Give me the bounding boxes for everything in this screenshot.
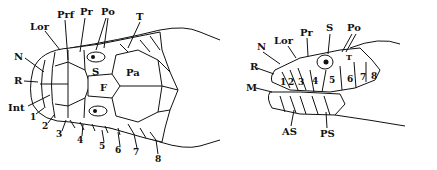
- snake-head-scale-diagram: Lor Prf Pr Po T N R Int S F Pa 1 2 3 4 5…: [0, 0, 437, 170]
- label-s: S: [92, 66, 99, 77]
- label-f: F: [100, 82, 107, 93]
- label-po: Po: [101, 6, 115, 17]
- label-pr-lateral: Pr: [300, 27, 314, 38]
- label-r: R: [14, 75, 23, 86]
- label-lat-2: 2: [288, 77, 294, 87]
- label-supralabial-1: 1: [30, 112, 36, 122]
- label-int: Int: [8, 102, 25, 113]
- label-lat-7: 7: [360, 72, 366, 82]
- label-lat-4: 4: [312, 76, 318, 86]
- diagram-canvas: Lor Prf Pr Po T N R Int S F Pa 1 2 3 4 5…: [0, 0, 437, 170]
- label-m-lateral: M: [246, 82, 257, 93]
- label-supralabial-3: 3: [56, 129, 62, 139]
- label-prf: Prf: [57, 9, 75, 20]
- label-po-lateral: Po: [347, 22, 361, 33]
- label-pr: Pr: [80, 6, 94, 17]
- label-lor: Lor: [30, 21, 50, 32]
- label-r-lateral: R: [250, 61, 259, 72]
- label-lat-6: 6: [347, 74, 353, 84]
- label-supralabial-6: 6: [115, 145, 121, 155]
- label-supralabial-8: 8: [155, 154, 161, 164]
- label-n: N: [14, 51, 23, 62]
- label-supralabial-5: 5: [99, 141, 105, 151]
- label-t-lateral: T: [346, 52, 352, 62]
- label-n-lateral: N: [257, 41, 266, 52]
- label-t: T: [136, 11, 144, 22]
- label-supralabial-4: 4: [77, 135, 83, 145]
- label-lat-1: 1: [280, 77, 286, 87]
- label-lat-5: 5: [329, 75, 335, 85]
- label-pa: Pa: [126, 67, 140, 78]
- label-supralabial-7: 7: [133, 147, 139, 157]
- label-lor-lateral: Lor: [274, 35, 294, 46]
- label-as: AS: [281, 126, 297, 137]
- label-ps: PS: [320, 128, 335, 139]
- label-s-lateral: S: [326, 22, 333, 33]
- label-lat-3: 3: [298, 77, 304, 87]
- label-supralabial-2: 2: [42, 121, 48, 131]
- label-lat-8: 8: [371, 71, 377, 81]
